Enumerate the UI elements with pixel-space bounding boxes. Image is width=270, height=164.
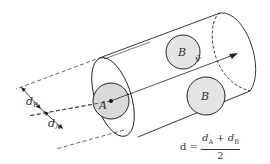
cylinder-back-ellipse-visible xyxy=(220,13,256,91)
velocity-label: v̄ xyxy=(195,53,201,64)
formula-fraction: dA + dB 2 xyxy=(201,132,240,161)
formula-denominator: 2 xyxy=(217,150,223,161)
cylinder-back-ellipse-hidden xyxy=(212,13,250,91)
formula-lhs: d = xyxy=(180,141,198,152)
dim-a-label: dA xyxy=(48,117,61,131)
velocity-arrowhead-icon xyxy=(229,53,238,59)
cylinder-top-edge-inner xyxy=(104,42,150,59)
particle-b-bottom-label: B xyxy=(200,90,209,103)
particle-a-label: A xyxy=(98,99,107,112)
cylinder-top-edge xyxy=(102,13,220,57)
mean-diameter-formula: d = dA + dB 2 xyxy=(180,132,240,161)
formula-numerator: dA + dB xyxy=(201,132,240,150)
particle-b-top-label: B xyxy=(177,46,186,59)
dimension-arrows xyxy=(22,88,62,128)
dim-b-label: dB xyxy=(26,95,38,109)
